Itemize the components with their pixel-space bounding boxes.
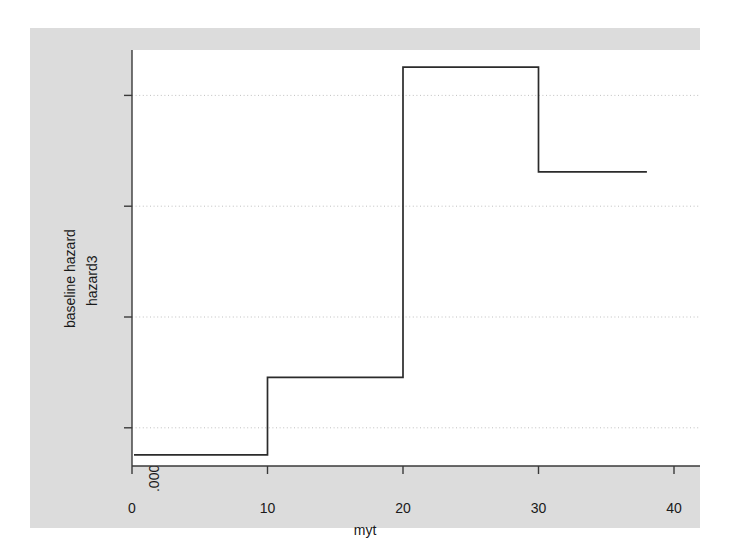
y-ticks bbox=[124, 95, 132, 427]
graph-region: baseline hazard hazard3 .0001 .0002 .000… bbox=[30, 28, 700, 528]
plot-canvas bbox=[30, 28, 700, 528]
x-ticks bbox=[132, 466, 674, 474]
chart-figure: baseline hazard hazard3 .0001 .0002 .000… bbox=[0, 0, 732, 558]
plot-background bbox=[132, 50, 700, 466]
